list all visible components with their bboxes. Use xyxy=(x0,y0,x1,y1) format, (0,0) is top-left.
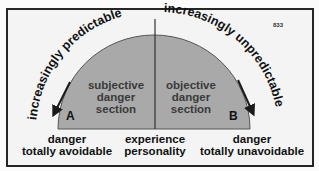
label-line: totally avoidable xyxy=(22,145,112,157)
section-letter-a: A xyxy=(66,109,75,123)
label-line: experience xyxy=(122,133,188,145)
label-line: danger xyxy=(22,133,112,145)
section-letter-b: B xyxy=(229,109,238,123)
objective-danger-section: objective danger section xyxy=(162,79,220,115)
section-line: objective xyxy=(162,79,220,91)
section-line: danger xyxy=(162,91,220,103)
section-line: section xyxy=(162,103,220,115)
label-danger-avoidable: danger totally avoidable xyxy=(22,133,112,157)
section-line: subjective xyxy=(84,79,148,91)
section-line: danger xyxy=(84,91,148,103)
label-line: personality xyxy=(122,145,188,157)
subjective-danger-section: subjective danger section xyxy=(84,79,148,115)
label-line: totally unavoidable xyxy=(198,145,306,157)
figure-number: 833 xyxy=(273,22,283,28)
label-line: danger xyxy=(198,133,306,145)
label-danger-unavoidable: danger totally unavoidable xyxy=(198,133,306,157)
diagram-stage: increasingly predictable increasingly un… xyxy=(0,0,319,171)
section-line: section xyxy=(84,103,148,115)
label-experience-personality: experience personality xyxy=(122,133,188,157)
